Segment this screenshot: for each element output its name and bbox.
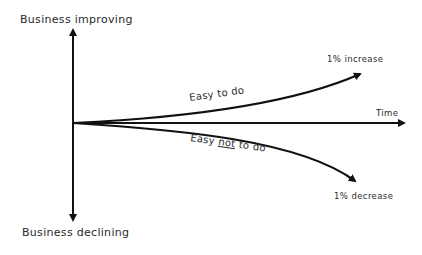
decrease-curve (73, 123, 355, 181)
diagram-canvas: Business improving Business declining Ti… (0, 0, 422, 255)
diagram-svg (0, 0, 422, 255)
y-axis-bottom-label: Business declining (22, 227, 129, 238)
increase-end-label: 1% increase (327, 55, 383, 64)
decrease-label-emphasis: not (218, 136, 237, 149)
y-axis-top-label: Business improving (20, 14, 133, 25)
decrease-end-label: 1% decrease (334, 192, 393, 201)
x-axis-label: Time (376, 109, 398, 118)
